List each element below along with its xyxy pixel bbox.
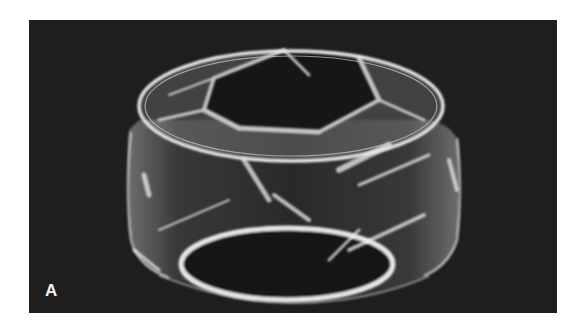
panel-label: A <box>45 281 57 301</box>
figure-panel: A <box>29 20 557 313</box>
ring-object-illustration <box>29 20 557 313</box>
